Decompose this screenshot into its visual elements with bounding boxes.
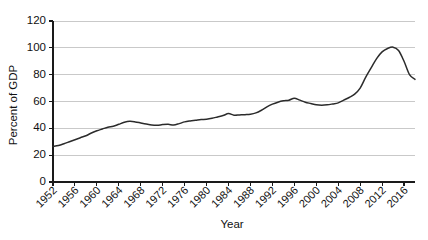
line-chart: 020406080100120 195219561960196419681972… <box>0 0 428 240</box>
x-tick-label: 1984 <box>209 184 235 210</box>
x-tick-label: 1972 <box>143 184 169 210</box>
y-axis-title: Percent of GDP <box>7 64 19 145</box>
x-tick-label: 1996 <box>274 184 300 210</box>
x-tick-label: 1960 <box>77 184 103 210</box>
y-tick-label: 120 <box>27 14 46 26</box>
x-tick-labels-group: 1952195619601964196819721976198019841988… <box>33 184 410 210</box>
y-tick-label: 20 <box>33 148 46 160</box>
x-tick-label: 1968 <box>121 184 147 210</box>
y-tick-label: 100 <box>27 41 46 53</box>
y-tick-label: 60 <box>33 95 46 107</box>
y-tick-label: 80 <box>33 68 46 80</box>
x-tick-label: 1988 <box>231 184 257 210</box>
x-tick-label: 2000 <box>296 184 322 210</box>
x-tick-label: 2008 <box>340 184 366 210</box>
y-tick-label: 0 <box>40 175 46 187</box>
x-tick-label: 2016 <box>384 184 410 210</box>
x-tick-label: 1980 <box>187 184 213 210</box>
x-tick-label: 1952 <box>33 184 59 210</box>
chart-container: 020406080100120 195219561960196419681972… <box>0 0 428 240</box>
x-tick-label: 2012 <box>362 184 388 210</box>
x-tick-marks-group <box>53 182 404 186</box>
x-tick-label: 1976 <box>165 184 191 210</box>
x-axis-title: Year <box>220 218 243 230</box>
x-tick-label: 1992 <box>253 184 279 210</box>
y-tick-label: 40 <box>33 121 46 133</box>
data-series-line <box>53 47 415 146</box>
y-tick-labels-group: 020406080100120 <box>27 14 46 187</box>
x-tick-label: 1964 <box>99 184 125 210</box>
x-tick-label: 1956 <box>55 184 81 210</box>
x-tick-label: 2004 <box>318 184 344 210</box>
